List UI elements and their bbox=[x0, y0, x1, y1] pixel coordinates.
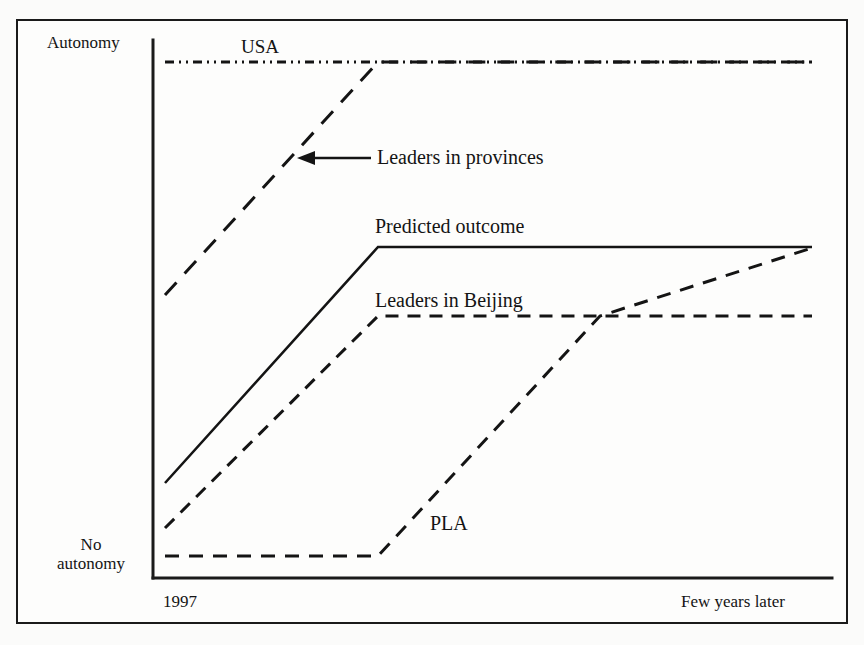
y-axis-bottom-label: No autonomy bbox=[37, 535, 145, 573]
series-line-leaders-in-beijing bbox=[165, 316, 812, 528]
series-label-usa: USA bbox=[241, 36, 279, 57]
series-line-predicted-outcome bbox=[165, 247, 812, 483]
series-label-leaders-in-beijing: Leaders in Beijing bbox=[375, 289, 523, 311]
x-axis-tick-few-years-later: Few years later bbox=[681, 592, 785, 611]
series-label-pla: PLA bbox=[430, 512, 468, 534]
series-line-leaders-in-provinces bbox=[165, 62, 812, 295]
annotation-arrow-leaders-in-provinces bbox=[297, 151, 371, 165]
x-axis-tick-1997: 1997 bbox=[163, 592, 197, 611]
series-label-leaders-in-provinces: Leaders in provinces bbox=[377, 146, 544, 168]
series-label-predicted-outcome: Predicted outcome bbox=[375, 215, 524, 237]
y-axis-top-label: Autonomy bbox=[47, 33, 120, 52]
figure-container: Autonomy No autonomy 1997 Few years late… bbox=[0, 0, 864, 645]
